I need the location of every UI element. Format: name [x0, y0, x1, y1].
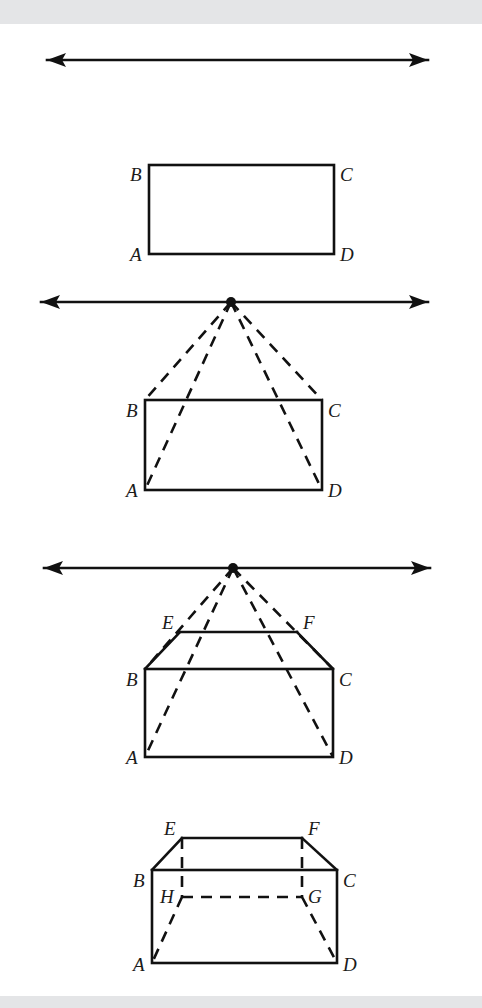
edge-CF	[302, 838, 337, 870]
edge-BE	[145, 632, 180, 669]
vertex-label-C: C	[340, 164, 353, 185]
vertex-label-A: A	[131, 954, 145, 975]
vertex-label-G: G	[308, 886, 322, 907]
vertex-label-D: D	[338, 747, 353, 768]
vertex-label-C: C	[328, 400, 341, 421]
horizon-line-1	[47, 53, 428, 67]
vertex-label-A: A	[124, 747, 138, 768]
ray-to-A	[145, 568, 233, 757]
perspective-diagram: B C A D B C A D	[0, 0, 482, 1008]
panel-3: E F B C A D	[44, 561, 430, 768]
perspective-rays-3	[145, 568, 333, 757]
vertex-label-B: B	[133, 870, 145, 891]
vertex-label-A: A	[128, 244, 142, 265]
vertex-label-B: B	[126, 400, 138, 421]
front-face-rect-3	[145, 669, 333, 757]
front-face-rect-4	[152, 870, 337, 963]
top-face-3	[145, 632, 333, 669]
vertex-label-E: E	[161, 612, 174, 633]
vertex-label-F: F	[307, 818, 320, 839]
vertex-label-B: B	[130, 164, 142, 185]
vertex-label-D: D	[339, 244, 354, 265]
edge-BE	[152, 838, 182, 870]
vertex-label-C: C	[339, 669, 352, 690]
diagram-page: B C A D B C A D	[0, 0, 482, 1008]
front-face-rect-1	[149, 165, 334, 254]
vertex-label-H: H	[159, 886, 175, 907]
vertex-label-E: E	[163, 818, 176, 839]
vertex-label-C: C	[343, 870, 356, 891]
ray-to-B	[145, 302, 231, 400]
perspective-rays-2	[145, 302, 322, 490]
ray-to-A	[145, 302, 231, 490]
edge-CF	[297, 632, 333, 669]
panel-2: B C A D	[41, 295, 428, 501]
top-face-4	[152, 838, 337, 870]
vertex-label-F: F	[302, 612, 315, 633]
ray-to-C	[231, 302, 322, 400]
ray-to-D	[231, 302, 322, 490]
panel-1: B C A D	[47, 53, 428, 265]
vertex-label-D: D	[327, 480, 342, 501]
front-face-rect-2	[145, 400, 322, 490]
vertex-label-A: A	[124, 480, 138, 501]
vertex-label-B: B	[126, 669, 138, 690]
ray-to-D	[233, 568, 333, 757]
panel-4: E F B C H G A D	[131, 818, 357, 975]
vertex-label-D: D	[342, 954, 357, 975]
